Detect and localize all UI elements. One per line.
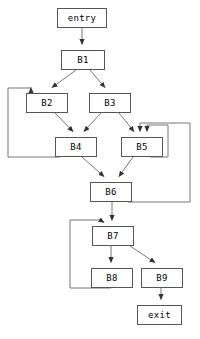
edge-b7-to-b9: [130, 246, 155, 263]
node-entry[interactable]: entry: [57, 8, 107, 28]
node-b5-label: B5: [136, 143, 147, 152]
node-entry-label: entry: [68, 14, 97, 23]
node-b3-label: B3: [104, 99, 115, 108]
edge-b3-to-b5: [119, 113, 134, 132]
control-flow-graph: entry B1 B2 B3 B4 B5 B6 B7 B8 B9 exit: [0, 0, 200, 339]
edge-b6-to-b5-back: [128, 123, 190, 202]
node-exit[interactable]: exit: [137, 305, 182, 325]
node-b5[interactable]: B5: [121, 137, 163, 157]
node-b8-label: B8: [106, 274, 117, 283]
edge-b2-to-b4: [55, 113, 73, 132]
node-b6[interactable]: B6: [90, 182, 132, 202]
node-b3[interactable]: B3: [89, 93, 131, 113]
node-b2-label: B2: [41, 99, 52, 108]
node-b9-label: B9: [156, 274, 167, 283]
node-b8[interactable]: B8: [91, 268, 133, 288]
edge-b1-to-b3: [90, 70, 105, 88]
node-b9[interactable]: B9: [141, 268, 183, 288]
edge-b3-to-b4: [84, 113, 101, 132]
node-b2[interactable]: B2: [26, 93, 68, 113]
node-b7-label: B7: [107, 232, 118, 241]
node-b1[interactable]: B1: [61, 50, 105, 70]
node-b4-label: B4: [70, 143, 81, 152]
node-b1-label: B1: [77, 56, 88, 65]
node-b6-label: B6: [105, 188, 116, 197]
node-exit-label: exit: [148, 311, 171, 320]
edge-b1-to-b2: [52, 70, 76, 88]
edge-b4-to-b6: [82, 157, 104, 177]
node-b7[interactable]: B7: [92, 226, 134, 246]
node-b4[interactable]: B4: [55, 137, 97, 157]
edge-b5-to-b6: [119, 157, 133, 177]
